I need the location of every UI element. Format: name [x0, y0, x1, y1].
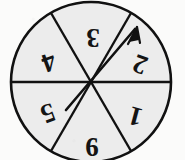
sector-label-6: 6 — [85, 132, 99, 160]
spinner-figure: 1 2 3 4 5 6 — [0, 0, 185, 160]
spinner-wheel-graphic[interactable]: 1 2 3 4 5 6 — [0, 0, 185, 160]
sector-label-3: 3 — [86, 23, 100, 53]
